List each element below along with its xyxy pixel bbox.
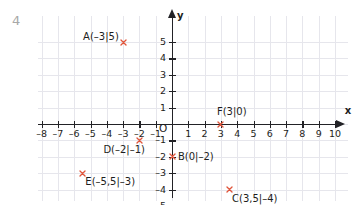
x-tick bbox=[205, 121, 206, 128]
gridline-horizontal bbox=[38, 108, 348, 109]
x-axis-label: x bbox=[345, 105, 351, 116]
y-tick bbox=[169, 91, 176, 92]
gridline-horizontal bbox=[38, 75, 348, 76]
grid-lines bbox=[38, 16, 348, 201]
y-tick bbox=[169, 58, 176, 59]
x-tick bbox=[74, 121, 75, 128]
y-tick bbox=[169, 42, 176, 43]
y-tick bbox=[169, 75, 176, 76]
x-tick bbox=[91, 121, 92, 128]
exercise-number: 4 bbox=[12, 13, 20, 28]
y-tick-label: 4 bbox=[144, 52, 166, 63]
x-tick bbox=[254, 121, 255, 128]
gridline-horizontal bbox=[38, 140, 348, 141]
x-tick bbox=[156, 121, 157, 128]
point-label-c: C(3,5|–4) bbox=[232, 193, 277, 204]
y-tick-label: –2 bbox=[144, 151, 166, 162]
gridline-horizontal bbox=[38, 58, 348, 59]
y-tick-label: 5 bbox=[144, 36, 166, 47]
x-tick bbox=[335, 121, 336, 128]
y-tick-label: –5 bbox=[144, 200, 166, 205]
x-tick bbox=[42, 121, 43, 128]
x-tick bbox=[58, 121, 59, 128]
x-tick bbox=[302, 121, 303, 128]
y-tick-label: –1 bbox=[144, 134, 166, 145]
x-tick bbox=[270, 121, 271, 128]
y-tick bbox=[169, 190, 176, 191]
worksheet-figure: 4 x y O –8–7–6–5–4–3–2–112345678910 5432… bbox=[0, 0, 354, 205]
x-axis-arrow-icon bbox=[336, 120, 345, 128]
gridline-horizontal bbox=[38, 91, 348, 92]
gridline-horizontal bbox=[38, 173, 348, 174]
y-tick-label: 3 bbox=[144, 69, 166, 80]
y-tick-label: 1 bbox=[144, 102, 166, 113]
point-label-b: B(0|–2) bbox=[178, 151, 214, 162]
x-tick bbox=[237, 121, 238, 128]
x-tick bbox=[123, 121, 124, 128]
x-tick bbox=[221, 121, 222, 128]
x-tick bbox=[107, 121, 108, 128]
point-label-e: E(–5,5|–3) bbox=[85, 176, 135, 187]
y-tick bbox=[169, 157, 176, 158]
point-label-d: D(–2|–1) bbox=[103, 144, 145, 155]
point-label-f: F(3|0) bbox=[217, 106, 247, 117]
gridline-horizontal bbox=[38, 42, 348, 43]
x-tick bbox=[286, 121, 287, 128]
point-label-a: A(–3|5) bbox=[83, 31, 119, 42]
x-tick bbox=[188, 121, 189, 128]
gridline-horizontal bbox=[38, 190, 348, 191]
y-tick-label: –4 bbox=[144, 184, 166, 195]
coordinate-plane: x y O –8–7–6–5–4–3–2–112345678910 54321–… bbox=[38, 16, 348, 201]
x-tick-label: 10 bbox=[324, 128, 346, 139]
y-tick bbox=[169, 173, 176, 174]
y-tick-label: –3 bbox=[144, 167, 166, 178]
y-tick bbox=[169, 108, 176, 109]
y-axis-arrow-icon bbox=[168, 9, 176, 18]
y-tick bbox=[169, 140, 176, 141]
x-tick bbox=[139, 121, 140, 128]
x-tick bbox=[319, 121, 320, 128]
y-tick-label: 2 bbox=[144, 85, 166, 96]
y-axis-label: y bbox=[177, 10, 184, 21]
